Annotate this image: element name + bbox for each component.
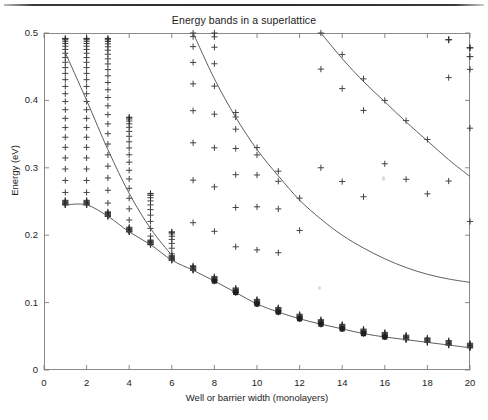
x-tick-label: 6 — [157, 377, 187, 388]
x-axis-label: Well or barrier width (monolayers) — [44, 392, 470, 403]
x-tick-label: 0 — [29, 377, 59, 388]
y-axis-label: Energy (eV) — [9, 111, 20, 231]
scan-speck — [382, 176, 385, 181]
scan-speck — [318, 286, 321, 290]
figure-page: Energy bands in a superlattice 024681012… — [0, 0, 488, 420]
x-tick-label: 10 — [242, 377, 272, 388]
x-tick-label: 8 — [199, 377, 229, 388]
y-tick-label: 0.2 — [4, 229, 38, 240]
x-tick-label: 18 — [412, 377, 442, 388]
data-curves — [65, 33, 470, 348]
x-tick-label: 2 — [72, 377, 102, 388]
x-tick-label: 12 — [285, 377, 315, 388]
x-tick-label: 16 — [370, 377, 400, 388]
chart-figure: Energy bands in a superlattice 024681012… — [0, 0, 488, 420]
data-markers — [62, 30, 473, 351]
y-tick-label: 0 — [4, 364, 38, 375]
x-tick-label: 20 — [455, 377, 485, 388]
chart-svg — [0, 0, 488, 420]
y-tick-label: 0.5 — [4, 27, 38, 38]
y-tick-label: 0.4 — [4, 94, 38, 105]
x-tick-label: 14 — [327, 377, 357, 388]
y-tick-label: 0.1 — [4, 297, 38, 308]
x-tick-label: 4 — [114, 377, 144, 388]
